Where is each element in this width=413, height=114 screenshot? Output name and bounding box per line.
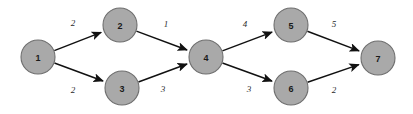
graph-svg: 22134352 1234567 xyxy=(0,0,413,114)
edge-weight-2-4: 1 xyxy=(164,19,169,29)
node-5[interactable]: 5 xyxy=(274,8,308,42)
node-7[interactable]: 7 xyxy=(361,41,395,75)
node-label-2: 2 xyxy=(117,21,122,31)
node-label-7: 7 xyxy=(375,54,380,64)
edge-weight-1-3: 2 xyxy=(71,85,76,95)
node-1[interactable]: 1 xyxy=(21,40,55,74)
edge-3-to-4 xyxy=(138,64,187,82)
edge-2-to-4 xyxy=(136,31,187,50)
edge-4-to-6 xyxy=(222,63,272,81)
edge-6-to-7 xyxy=(308,65,359,83)
edge-1-to-3 xyxy=(54,63,103,81)
edge-weight-5-7: 5 xyxy=(332,19,337,29)
edge-5-to-7 xyxy=(307,31,359,51)
node-3[interactable]: 3 xyxy=(105,71,139,105)
node-label-6: 6 xyxy=(288,84,293,94)
node-label-3: 3 xyxy=(119,84,124,94)
node-label-4: 4 xyxy=(203,53,208,63)
node-6[interactable]: 6 xyxy=(274,71,308,105)
node-label-5: 5 xyxy=(288,21,293,31)
edge-weight-6-7: 2 xyxy=(332,85,337,95)
nodes-layer: 1234567 xyxy=(21,8,395,105)
edge-1-to-2 xyxy=(54,32,101,50)
node-4[interactable]: 4 xyxy=(189,40,223,74)
node-2[interactable]: 2 xyxy=(103,8,137,42)
edge-weight-1-2: 2 xyxy=(71,18,76,28)
edge-weight-3-4: 3 xyxy=(160,84,166,94)
graph-diagram-canvas: 22134352 1234567 xyxy=(0,0,413,114)
edge-weight-4-5: 4 xyxy=(243,19,248,29)
edge-weight-4-6: 3 xyxy=(246,84,252,94)
edge-4-to-5 xyxy=(222,32,272,51)
node-label-1: 1 xyxy=(35,53,40,63)
